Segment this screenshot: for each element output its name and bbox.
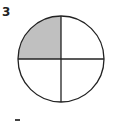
fraction-circle-diagram xyxy=(0,0,117,121)
next-item-fragment xyxy=(15,119,20,121)
